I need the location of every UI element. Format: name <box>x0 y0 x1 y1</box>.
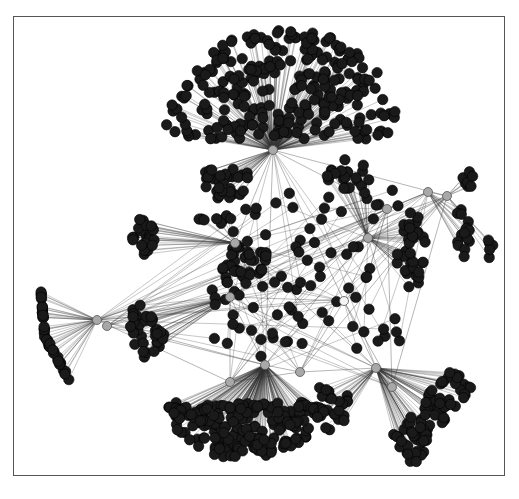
leaf-node <box>466 181 476 191</box>
leaf-node <box>219 92 229 102</box>
leaf-node <box>427 385 437 395</box>
leaf-node <box>458 393 468 403</box>
leaf-node <box>306 84 316 94</box>
leaf-node <box>437 376 447 386</box>
leaf-node <box>223 124 233 134</box>
leaf-node <box>293 311 303 321</box>
leaf-node <box>261 251 271 261</box>
leaf-node <box>269 130 279 140</box>
hub-node <box>388 383 397 392</box>
leaf-node <box>364 75 374 85</box>
leaf-node <box>351 292 361 302</box>
leaf-node <box>312 412 322 422</box>
leaf-node <box>390 106 400 116</box>
leaf-node <box>265 61 275 71</box>
leaf-node <box>218 53 228 63</box>
leaf-node <box>241 204 251 214</box>
leaf-node <box>305 223 315 233</box>
leaf-node <box>167 100 177 110</box>
leaf-node <box>257 264 267 274</box>
leaf-node <box>244 431 254 441</box>
leaf-node <box>321 384 331 394</box>
leaf-node <box>275 60 285 70</box>
leaf-node <box>286 27 296 37</box>
edge <box>273 150 301 282</box>
leaf-node <box>396 436 406 446</box>
leaf-node <box>195 416 205 426</box>
leaf-node <box>348 242 358 252</box>
leaf-node <box>329 75 339 85</box>
leaf-node <box>483 235 493 245</box>
leaf-node <box>274 115 284 125</box>
leaf-node <box>222 338 232 348</box>
leaf-node <box>467 171 477 181</box>
leaf-node <box>234 290 244 300</box>
leaf-node <box>239 91 249 101</box>
leaf-node <box>250 33 260 43</box>
leaf-node <box>347 56 357 66</box>
leaf-node <box>373 130 383 140</box>
leaf-node <box>246 64 256 74</box>
leaf-node <box>344 283 354 293</box>
leaf-node <box>281 438 291 448</box>
leaf-node <box>176 112 186 122</box>
leaf-node <box>326 248 336 258</box>
leaf-node <box>248 76 258 86</box>
leaf-node <box>294 107 304 117</box>
leaf-node <box>387 185 397 195</box>
edge <box>364 238 368 332</box>
leaf-node <box>259 435 269 445</box>
leaf-node <box>324 33 334 43</box>
leaf-node <box>456 209 466 219</box>
leaf-node <box>170 127 180 137</box>
leaf-node <box>53 356 63 366</box>
leaf-node <box>322 171 332 181</box>
leaf-node <box>378 94 388 104</box>
hub-node <box>231 239 240 248</box>
leaf-node <box>219 105 229 115</box>
leaf-node <box>271 198 281 208</box>
leaf-node <box>237 53 247 63</box>
leaf-node <box>199 215 209 225</box>
hub-node <box>383 205 392 214</box>
leaf-node <box>146 312 156 322</box>
leaf-node <box>233 172 243 182</box>
leaf-node <box>327 92 337 102</box>
leaf-node <box>205 134 215 144</box>
leaf-node <box>378 324 388 334</box>
leaf-node <box>264 39 274 49</box>
leaf-node <box>362 272 372 282</box>
leaf-node <box>324 192 334 202</box>
leaf-node <box>340 155 350 165</box>
leaf-node <box>257 281 267 291</box>
hub-node <box>93 316 102 325</box>
leaf-node <box>310 125 320 135</box>
leaf-node <box>252 401 262 411</box>
leaf-node <box>200 70 210 80</box>
leaf-node <box>236 266 246 276</box>
network-graph <box>0 0 519 499</box>
leaf-node <box>228 89 238 99</box>
leaf-node <box>484 244 494 254</box>
leaf-node <box>256 334 266 344</box>
leaf-node <box>147 240 157 250</box>
leaf-node <box>348 321 358 331</box>
leaf-node <box>320 107 330 117</box>
leaf-node <box>414 267 424 277</box>
leaf-node <box>337 58 347 68</box>
leaf-node <box>326 394 336 404</box>
leaf-node <box>344 68 354 78</box>
leaf-node <box>222 277 232 287</box>
leaf-node <box>273 407 283 417</box>
leaf-node <box>225 403 235 413</box>
hub-node <box>226 378 235 387</box>
leaf-node <box>199 433 209 443</box>
hub-node <box>424 188 433 197</box>
leaf-node <box>280 337 290 347</box>
leaf-node <box>358 160 368 170</box>
leaf-node <box>146 221 156 231</box>
leaf-node <box>339 183 349 193</box>
leaf-node <box>403 449 413 459</box>
leaf-node <box>373 336 383 346</box>
leaf-node <box>257 86 267 96</box>
